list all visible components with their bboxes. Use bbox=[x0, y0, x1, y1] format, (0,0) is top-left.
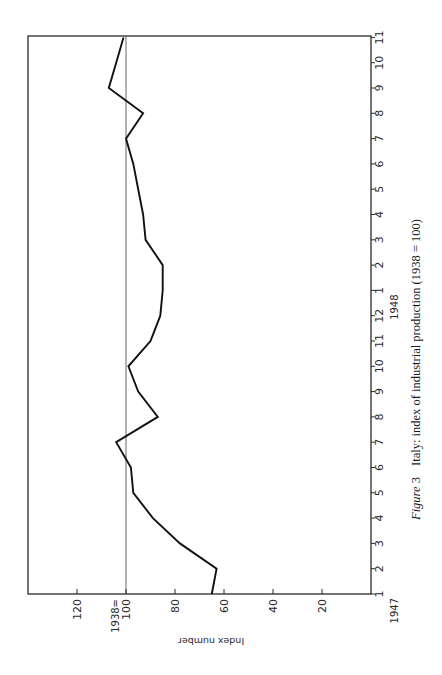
y-tick-label: 80 bbox=[169, 599, 182, 613]
figure-label: Figure bbox=[409, 486, 423, 521]
x-tick-label: 8 bbox=[373, 110, 386, 117]
industrial-production-line bbox=[109, 37, 217, 594]
plot-frame bbox=[28, 36, 371, 594]
x-year-label: 1947 bbox=[389, 598, 400, 623]
x-tick-label: 1 bbox=[373, 591, 386, 598]
y-tick-label: 120 bbox=[71, 599, 84, 620]
chart: 1201001938=80604020 12345678910111212345… bbox=[0, 0, 442, 675]
figure-number: 3 bbox=[409, 477, 423, 483]
x-tick-label: 12 bbox=[373, 309, 386, 323]
y-axis-title: Index number bbox=[178, 636, 244, 647]
x-tick-label: 5 bbox=[373, 489, 386, 496]
x-tick-label: 4 bbox=[373, 211, 386, 218]
y-tick-prefix: 1938= bbox=[110, 599, 121, 633]
x-tick-label: 3 bbox=[373, 236, 386, 243]
x-tick-label: 1 bbox=[373, 287, 386, 294]
x-axis-ticks: 123456789101112123456789101119471948 bbox=[371, 30, 400, 623]
x-year-label: 1948 bbox=[389, 294, 400, 319]
x-tick-label: 7 bbox=[373, 439, 386, 446]
x-tick-label: 5 bbox=[373, 186, 386, 193]
x-tick-label: 3 bbox=[373, 540, 386, 547]
x-tick-label: 8 bbox=[373, 413, 386, 420]
y-tick-label: 40 bbox=[267, 599, 280, 613]
y-axis-ticks: 1201001938=80604020 bbox=[71, 589, 329, 633]
x-tick-label: 9 bbox=[373, 388, 386, 395]
x-tick-label: 2 bbox=[373, 565, 386, 572]
x-tick-label: 11 bbox=[373, 334, 386, 348]
x-tick-label: 11 bbox=[373, 30, 386, 44]
x-tick-label: 10 bbox=[373, 359, 386, 373]
x-tick-label: 6 bbox=[373, 464, 386, 471]
figure-caption: Figure 3 Italy: index of industrial prod… bbox=[409, 219, 423, 521]
y-tick-label: 100 bbox=[120, 599, 133, 620]
x-tick-label: 4 bbox=[373, 515, 386, 522]
x-tick-label: 2 bbox=[373, 262, 386, 269]
x-tick-label: 9 bbox=[373, 85, 386, 92]
y-tick-label: 60 bbox=[218, 599, 231, 613]
x-tick-label: 7 bbox=[373, 135, 386, 142]
figure-title: Italy: index of industrial production (1… bbox=[409, 219, 423, 466]
y-tick-label: 20 bbox=[316, 599, 329, 613]
x-tick-label: 10 bbox=[373, 56, 386, 70]
x-tick-label: 6 bbox=[373, 160, 386, 167]
